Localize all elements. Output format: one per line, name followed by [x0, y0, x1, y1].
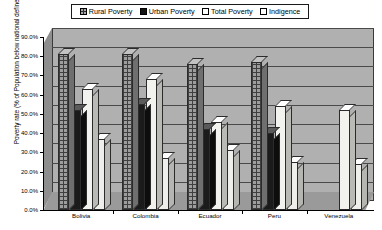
bar-side — [234, 150, 240, 210]
y-axis-tick-label: 70.0% — [6, 72, 38, 78]
plot-side-wall — [43, 28, 52, 210]
bar-side — [81, 110, 87, 210]
bar-side — [133, 54, 139, 210]
bar-side — [157, 79, 163, 210]
y-axis-tick-label: 80.0% — [6, 53, 38, 59]
bar-side — [274, 133, 280, 210]
bar-side — [169, 158, 175, 210]
bar-side — [198, 64, 204, 210]
bar-venezuela-total-poverty — [339, 110, 350, 210]
gridline — [52, 105, 374, 106]
bar-face — [187, 64, 198, 210]
bar-bolivia-rural-poverty — [58, 54, 69, 210]
y-axis-line — [43, 37, 44, 210]
bar-colombia-rural-poverty — [122, 54, 133, 210]
y-axis-tick-label: 40.0% — [6, 130, 38, 136]
bar-peru-rural-poverty — [251, 62, 262, 210]
x-axis-tick — [113, 210, 114, 214]
y-axis-tick-label: 10.0% — [6, 188, 38, 194]
bar-side — [93, 89, 99, 210]
x-axis-label-peru: Peru — [239, 213, 309, 219]
bar-side — [286, 106, 292, 210]
x-axis-label-ecuador: Ecuador — [175, 213, 245, 219]
bar-side — [222, 122, 228, 210]
y-axis-tick-label: 20.0% — [6, 169, 38, 175]
bar-side — [69, 54, 75, 210]
y-axis-tick-label: 90.0% — [6, 34, 38, 40]
bar-side — [350, 110, 356, 210]
y-axis-tick-label: 30.0% — [6, 149, 38, 155]
bar-face — [58, 54, 69, 210]
bar-ecuador-rural-poverty — [187, 64, 198, 210]
x-axis-label-venezuela: Venezuela — [304, 213, 374, 219]
y-axis-tick-label: 60.0% — [6, 92, 38, 98]
gridline — [52, 28, 374, 29]
x-axis-tick — [242, 210, 243, 214]
bar-side — [262, 62, 268, 210]
bar-side — [362, 164, 368, 210]
bar-side — [145, 104, 151, 210]
bar-side — [105, 139, 111, 210]
chart-plot-area: 0.0%10.0%20.0%30.0%40.0%50.0%60.0%70.0%8… — [0, 0, 382, 230]
x-axis-tick — [178, 210, 179, 214]
bar-face — [251, 62, 262, 210]
gridline — [52, 66, 374, 67]
bar-side — [298, 162, 304, 210]
bar-face — [339, 110, 350, 210]
bar-side — [210, 129, 216, 210]
gridline — [52, 86, 374, 87]
x-axis-label-colombia: Colombia — [111, 213, 181, 219]
x-axis-tick — [307, 210, 308, 214]
x-axis-label-bolivia: Bolivia — [46, 213, 116, 219]
x-axis-line — [43, 210, 374, 211]
bar-face — [122, 54, 133, 210]
y-axis-tick-label: 0.0% — [6, 207, 38, 213]
y-axis-tick-label: 50.0% — [6, 111, 38, 117]
gridline — [52, 47, 374, 48]
